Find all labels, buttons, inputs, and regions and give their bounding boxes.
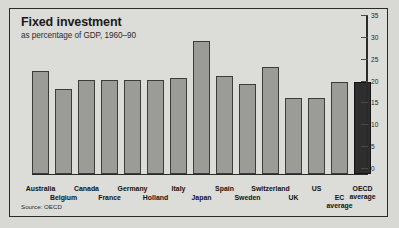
bar[interactable] bbox=[124, 80, 141, 174]
y-tick-mark bbox=[361, 15, 368, 16]
x-axis-label: UK bbox=[289, 194, 299, 202]
x-axis-label: France bbox=[98, 194, 121, 202]
y-tick-label: 5 bbox=[371, 143, 375, 150]
bar[interactable] bbox=[55, 89, 72, 174]
y-tick-label: 30 bbox=[371, 33, 378, 40]
bar-slot bbox=[101, 21, 118, 174]
bar[interactable] bbox=[170, 78, 187, 174]
y-tick-mark bbox=[361, 81, 368, 82]
bar[interactable] bbox=[193, 41, 210, 174]
y-tick-label: 0 bbox=[371, 165, 375, 172]
y-tick-label: 10 bbox=[371, 121, 378, 128]
x-axis-label: OECDaverage bbox=[349, 185, 375, 200]
y-tick-label: 20 bbox=[371, 77, 378, 84]
y-tick-mark bbox=[361, 168, 368, 169]
x-axis-label: Australia bbox=[26, 185, 56, 193]
bar-slot bbox=[32, 21, 49, 174]
bar[interactable] bbox=[331, 82, 348, 174]
bar[interactable] bbox=[285, 98, 302, 175]
bar-slot bbox=[147, 21, 164, 174]
x-axis-label: Holland bbox=[143, 194, 168, 202]
chart-page: Fixed investment as percentage of GDP, 1… bbox=[0, 0, 399, 228]
bar[interactable] bbox=[308, 98, 325, 175]
bar-slot bbox=[285, 21, 302, 174]
bars-canvas bbox=[32, 21, 366, 174]
bar-series bbox=[32, 21, 366, 174]
x-axis-line bbox=[32, 174, 368, 175]
bar-slot bbox=[170, 21, 187, 174]
bar-slot bbox=[124, 21, 141, 174]
bar[interactable] bbox=[216, 76, 233, 174]
y-tick-label: 35 bbox=[371, 12, 378, 19]
x-axis-labels: AustraliaBelgiumCanadaFranceGermanyHolla… bbox=[32, 185, 392, 213]
y-tick-mark bbox=[361, 37, 368, 38]
bar[interactable] bbox=[78, 80, 95, 174]
y-tick-mark bbox=[361, 124, 368, 125]
y-tick-label: 15 bbox=[371, 99, 378, 106]
x-axis-label: Canada bbox=[74, 185, 99, 193]
bar-slot bbox=[239, 21, 256, 174]
x-axis-label: Germany bbox=[118, 185, 148, 193]
bar-slot bbox=[193, 21, 210, 174]
x-axis-label: Spain bbox=[215, 185, 234, 193]
y-tick-mark bbox=[361, 146, 368, 147]
x-axis-label: Belgium bbox=[50, 194, 77, 202]
x-axis-label: Switzerland bbox=[251, 185, 289, 193]
plot-area bbox=[32, 15, 366, 182]
source-note: Source: OECD bbox=[21, 203, 62, 210]
x-axis-label: US bbox=[312, 185, 322, 193]
y-tick-mark bbox=[361, 102, 368, 103]
chart-panel: Fixed investment as percentage of GDP, 1… bbox=[9, 8, 388, 217]
x-axis-label: Japan bbox=[192, 194, 212, 202]
bar[interactable] bbox=[147, 80, 164, 174]
bar[interactable] bbox=[354, 82, 371, 174]
bar[interactable] bbox=[239, 84, 256, 174]
bar[interactable] bbox=[32, 71, 49, 174]
bar-slot bbox=[354, 21, 371, 174]
bar[interactable] bbox=[262, 67, 279, 174]
y-tick-label: 25 bbox=[371, 55, 378, 62]
bar-slot bbox=[308, 21, 325, 174]
bar-slot bbox=[262, 21, 279, 174]
x-axis-label: Sweden bbox=[234, 194, 260, 202]
x-axis-label: Italy bbox=[172, 185, 186, 193]
y-tick-mark bbox=[361, 59, 368, 60]
bar[interactable] bbox=[101, 80, 118, 174]
bar-slot bbox=[55, 21, 72, 174]
bar-slot bbox=[78, 21, 95, 174]
bar-slot bbox=[331, 21, 348, 174]
bar-slot bbox=[216, 21, 233, 174]
